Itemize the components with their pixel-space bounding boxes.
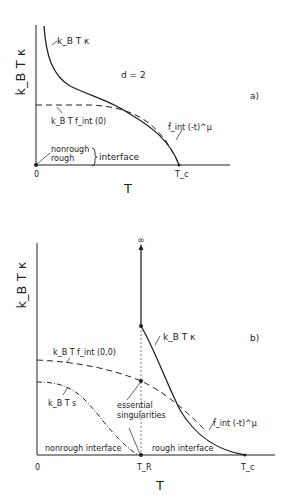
- panel-b-x-axis-label: T: [155, 478, 164, 493]
- panel-b-critical-form-label: f̂_int (-t)^μ: [213, 418, 257, 428]
- panel-b-infinity-label: ∞: [137, 235, 145, 245]
- panel-b-region-left: nonrough interface: [45, 444, 122, 453]
- panel-a-dimension-label: d = 2: [121, 70, 146, 80]
- panel-a-brace-bottom: rough: [51, 154, 74, 163]
- panel-b-stiffness-label: k_B T κ: [163, 332, 196, 342]
- figure: k_B T κ k_B T κ d = 2 a) k_B T f_int (0)…: [0, 0, 287, 499]
- panel-b-free-energy-label: k_B T f_int (0,0): [53, 348, 116, 357]
- panel-a-brace: [92, 148, 97, 166]
- panel-b-annotation-line2: singularities: [117, 411, 166, 420]
- panel-a-brace-top: nonrough: [51, 145, 89, 154]
- panel-b-region-right: rough interface: [152, 444, 214, 453]
- panel-b-tick-tc: T_c: [240, 463, 254, 472]
- panel-b-y-axis-label: k_B T κ: [14, 261, 29, 308]
- panel-b-stiffness-curve: [141, 326, 245, 455]
- panel-b-tick-origin: 0: [35, 463, 40, 472]
- panel-b-tag: b): [250, 333, 259, 343]
- panel-b-tick-tr: T_R: [136, 463, 152, 472]
- panel-a-stiffness-label: k_B T κ: [57, 36, 90, 46]
- panel-a-brace-text: interface: [99, 152, 140, 162]
- panel-a-tick-origin: 0: [34, 170, 39, 179]
- panel-a-tick-tc: T_c: [174, 170, 188, 179]
- panel-b-step-label: k_B T s: [48, 399, 76, 408]
- panel-b-annotation-line1: essential: [117, 401, 153, 410]
- panel-a-y-axis-label: k_B T κ: [13, 48, 28, 95]
- panel-a-tag: a): [250, 91, 259, 101]
- panel-a-critical-form-label: f̂_int (-t)^μ: [168, 122, 212, 132]
- panel-a-x-axis-label: T: [123, 181, 132, 196]
- panel-a-free-energy-label: k_B T f_int (0): [51, 117, 106, 126]
